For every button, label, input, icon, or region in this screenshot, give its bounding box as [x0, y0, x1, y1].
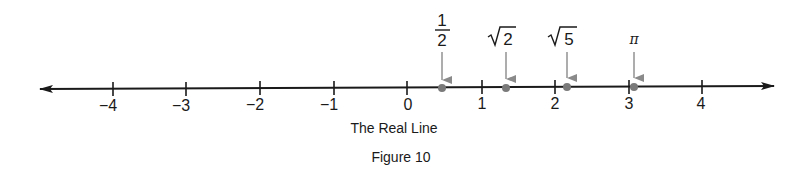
pi-symbol: π [628, 31, 639, 47]
point-one-half: 1 2 [435, 11, 450, 92]
tick-label: −3 [172, 97, 190, 114]
point-sqrt-2: 2 [488, 27, 516, 92]
radicand: 2 [503, 30, 512, 49]
tick-label: 1 [478, 95, 487, 112]
real-number-line-figure: −4 −3 −2 −1 0 1 2 3 4 1 2 2 5 π The Real… [0, 0, 809, 177]
point-dot [630, 83, 638, 91]
tick-label: 0 [404, 96, 413, 113]
tick-label: 3 [625, 95, 634, 112]
tick-labels: −4 −3 −2 −1 0 1 2 3 4 [99, 95, 706, 114]
point-dot [502, 84, 510, 92]
fraction-numerator: 1 [437, 11, 446, 30]
point-dot [438, 84, 446, 92]
axis-label: The Real Line [350, 120, 437, 136]
tick-label: −4 [99, 97, 117, 114]
figure-caption: Figure 10 [371, 149, 430, 165]
tick-label: 2 [551, 95, 560, 112]
tick-label: −1 [320, 96, 338, 113]
tick-label: 4 [697, 95, 706, 112]
tick-label: −2 [246, 96, 264, 113]
point-dot [563, 83, 571, 91]
radicand: 5 [564, 30, 573, 49]
point-sqrt-5: 5 [548, 27, 577, 91]
fraction-denominator: 2 [437, 31, 446, 50]
point-pi: π [628, 31, 639, 91]
